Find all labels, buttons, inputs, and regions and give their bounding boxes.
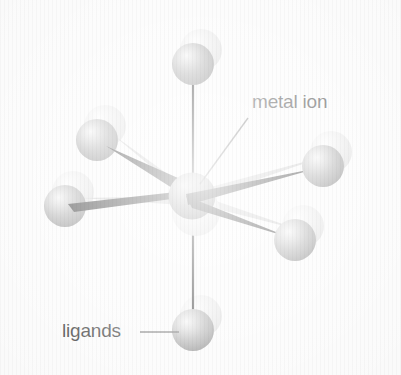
label-metal-ion: metal ion [252,92,327,112]
sphere-ligand-upper-left [76,119,118,161]
diagram-scene: metal ion ligands [0,0,401,375]
sphere-ligand-bottom [172,309,214,351]
sphere-ligand-upper-right [302,145,344,187]
sphere-ligand-lower-right [274,219,316,261]
label-ligands: ligands [62,321,121,341]
octahedral-complex-figure: metal ion ligands [0,0,401,375]
leader-line-metal-ion [200,118,248,184]
sphere-ligand-top [172,43,214,85]
diagram-canvas [0,0,401,375]
